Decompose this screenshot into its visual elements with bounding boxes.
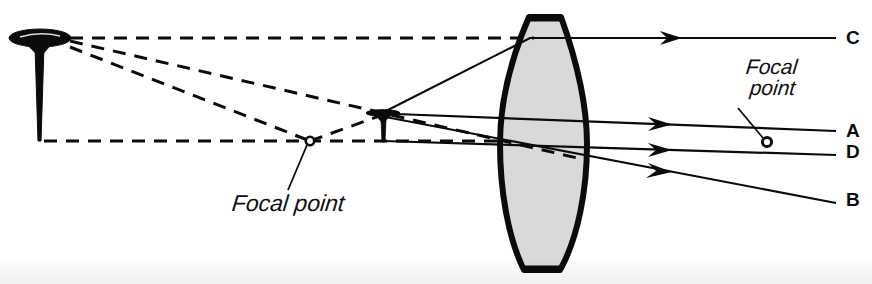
focal-point-label-right-line2: point bbox=[743, 77, 797, 98]
thumbtack-object bbox=[9, 29, 71, 141]
thumbtack-image bbox=[366, 110, 400, 142]
thumbtack-object-shaft bbox=[35, 46, 44, 141]
thumbtack-object-head bbox=[9, 29, 71, 47]
ray-arrowheads bbox=[646, 31, 682, 178]
focal-point-right-leader-line bbox=[738, 108, 763, 138]
ray-label-c: C bbox=[846, 28, 860, 47]
focal-point-label-right-line1: Focal bbox=[745, 55, 799, 78]
dashed-focal-to-image-ray bbox=[310, 115, 382, 141]
biconvex-lens bbox=[500, 17, 587, 270]
ray-label-a: A bbox=[846, 121, 860, 140]
focal-point-right-marker bbox=[762, 137, 771, 146]
ray-label-b: B bbox=[846, 190, 860, 209]
focal-point-left-marker bbox=[306, 137, 314, 145]
thumbtack-image-head bbox=[366, 110, 400, 117]
dashed-object-lower-ray bbox=[70, 47, 310, 141]
focal-point-label-left: Focal point bbox=[231, 192, 346, 215]
lens-shape bbox=[500, 17, 587, 270]
diagram-canvas bbox=[0, 0, 872, 284]
focal-point-left-leader-line bbox=[288, 145, 307, 190]
focal-point-label-right: Focalpoint bbox=[743, 56, 799, 99]
ray-label-d: D bbox=[846, 142, 860, 161]
ray-diagram-figure: Focal point Focalpoint C A D B bbox=[0, 0, 872, 284]
